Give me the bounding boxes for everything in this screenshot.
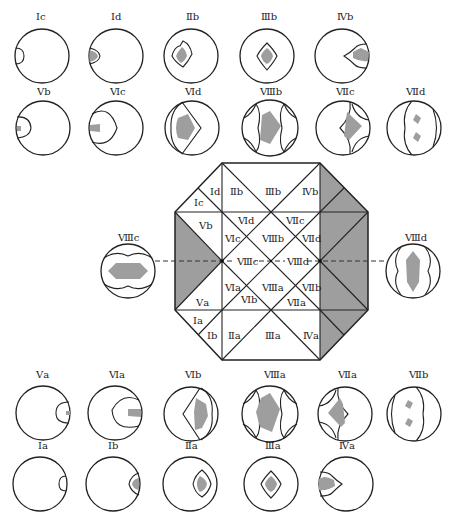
label-Ib: Ⅰb bbox=[108, 440, 118, 451]
oct-label-IIb: Ⅱb bbox=[230, 186, 243, 197]
projection-Ic: Ⅰc bbox=[15, 11, 69, 83]
oct-label-IIIb: Ⅲb bbox=[265, 186, 281, 197]
label-VIIc: Ⅶc bbox=[335, 86, 355, 97]
projection-VIIIb: Ⅷb bbox=[242, 86, 298, 156]
label-VIb: Ⅵb bbox=[184, 369, 201, 380]
projection-IIa: Ⅱa bbox=[163, 440, 217, 511]
diagram-canvas: Ⅰc Ⅰd Ⅱb Ⅲb Ⅳb Ⅴb Ⅵc Ⅵd bbox=[0, 0, 454, 514]
projection-VIc: Ⅵc bbox=[89, 86, 143, 155]
label-VIa: Ⅵa bbox=[108, 369, 125, 380]
oct-label-Vb: Ⅴb bbox=[198, 220, 213, 231]
octagon-chart: Ⅰd Ⅰc Ⅱb Ⅲb Ⅳb Ⅴb Ⅵd Ⅶc Ⅵc Ⅷb Ⅶd Ⅷc Ⅷd Ⅵ… bbox=[155, 163, 386, 360]
oct-label-VIIIa-top: Ⅷa bbox=[261, 282, 284, 293]
projection-Vb: Ⅴb bbox=[16, 86, 70, 155]
projection-IVb: Ⅳb bbox=[315, 11, 369, 83]
oct-label-VIIIc: Ⅷc bbox=[236, 256, 259, 267]
projection-VId: Ⅵd bbox=[165, 86, 219, 155]
label-Id: Ⅰd bbox=[111, 11, 122, 22]
oct-label-VIIa: Ⅶa bbox=[286, 297, 306, 308]
oct-label-VIIId: Ⅷd bbox=[286, 256, 310, 267]
oct-label-VIb: Ⅵb bbox=[240, 294, 257, 305]
label-VIIb: Ⅶb bbox=[408, 369, 428, 380]
projection-VIIb: Ⅶb bbox=[387, 369, 441, 441]
label-IVb: Ⅳb bbox=[337, 11, 353, 22]
oct-label-IVa: Ⅳa bbox=[303, 330, 319, 341]
projection-IVa: Ⅳa bbox=[319, 440, 373, 511]
label-IVa: Ⅳa bbox=[339, 440, 355, 451]
oct-label-Ib: Ⅰb bbox=[207, 330, 217, 341]
oct-label-VIId: Ⅶd bbox=[301, 233, 322, 244]
oct-label-VId: Ⅵd bbox=[237, 215, 255, 226]
oct-label-IIIa: Ⅲa bbox=[265, 330, 281, 341]
oct-label-VIa: Ⅵa bbox=[224, 282, 241, 293]
projection-VIb: Ⅵb bbox=[164, 369, 218, 441]
projection-IIIa: Ⅲa bbox=[244, 440, 298, 511]
projection-VIIIc: Ⅷc bbox=[101, 232, 155, 298]
label-VId: Ⅵd bbox=[184, 86, 202, 97]
projection-IIIb: Ⅲb bbox=[240, 11, 294, 83]
label-Ia: Ⅰa bbox=[38, 440, 48, 451]
label-IIIb: Ⅲb bbox=[261, 11, 277, 22]
oct-label-VIIIb: Ⅷb bbox=[261, 233, 284, 244]
zone-diagram: Ⅰc Ⅰd Ⅱb Ⅲb Ⅳb Ⅴb Ⅵc Ⅵd bbox=[0, 0, 454, 514]
oct-label-Ia: Ⅰa bbox=[193, 315, 203, 326]
projection-VIIa: Ⅶa bbox=[318, 369, 372, 441]
oct-label-IIa: Ⅱa bbox=[228, 330, 241, 341]
oct-label-Id: Ⅰd bbox=[210, 186, 221, 197]
oct-label-Ic: Ⅰc bbox=[194, 197, 204, 208]
label-VIIIa: Ⅷa bbox=[263, 369, 286, 380]
projection-Id: Ⅰd bbox=[89, 11, 143, 83]
oct-label-IVb: Ⅳb bbox=[302, 186, 318, 197]
oct-label-VIc: Ⅵc bbox=[224, 233, 241, 244]
projection-VIIc: Ⅶc bbox=[316, 86, 370, 155]
label-Vb: Ⅴb bbox=[36, 86, 51, 97]
oct-label-Va: Ⅴa bbox=[195, 297, 209, 308]
projection-Va: Ⅴa bbox=[16, 369, 70, 440]
label-VIc: Ⅵc bbox=[109, 86, 126, 97]
projection-VIIId: Ⅷd bbox=[386, 232, 440, 298]
label-IIa: Ⅱa bbox=[185, 440, 198, 451]
label-IIb: Ⅱb bbox=[186, 11, 199, 22]
projection-Ib: Ⅰb bbox=[86, 440, 140, 511]
label-VIIIc: Ⅷc bbox=[117, 232, 140, 243]
label-Ic: Ⅰc bbox=[36, 11, 46, 22]
label-Va: Ⅴa bbox=[35, 369, 49, 380]
projection-VIIIa: Ⅷa bbox=[242, 369, 298, 442]
label-VIIId: Ⅷd bbox=[404, 232, 428, 243]
label-IIIa: Ⅲa bbox=[265, 440, 281, 451]
oct-label-VIIc: Ⅶc bbox=[285, 215, 305, 226]
label-VIIIb: Ⅷb bbox=[259, 86, 282, 97]
projection-Ia: Ⅰa bbox=[13, 440, 67, 511]
projection-IIb: Ⅱb bbox=[164, 11, 218, 83]
oct-label-VIIb: Ⅶb bbox=[301, 282, 321, 293]
projection-VIId: Ⅶd bbox=[387, 86, 441, 155]
label-VIId: Ⅶd bbox=[405, 86, 426, 97]
projection-VIa: Ⅵa bbox=[88, 369, 142, 440]
label-VIIa: Ⅶa bbox=[337, 369, 357, 380]
